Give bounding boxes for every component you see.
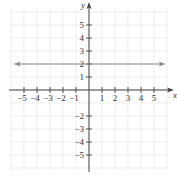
y-tick-label: 2 bbox=[80, 59, 85, 69]
y-tick-label: 1 bbox=[80, 72, 85, 82]
y-tick-label: −3 bbox=[74, 124, 84, 134]
x-tick-label: 4 bbox=[139, 93, 144, 103]
y-tick-label: −2 bbox=[74, 111, 84, 121]
y-tick-label: −4 bbox=[74, 137, 84, 147]
y-tick-label: −5 bbox=[74, 150, 84, 160]
x-tick-label: 5 bbox=[152, 93, 157, 103]
x-axis-label: x bbox=[172, 90, 177, 100]
x-tick-label: −5 bbox=[17, 93, 27, 103]
axes bbox=[9, 2, 174, 172]
x-tick-label: −1 bbox=[69, 93, 79, 103]
x-tick-label: −4 bbox=[30, 93, 40, 103]
x-tick-label: 3 bbox=[126, 93, 131, 103]
y-tick-label: 3 bbox=[80, 46, 85, 56]
y-axis-label: y bbox=[80, 0, 85, 10]
x-tick-label: −2 bbox=[56, 93, 66, 103]
x-tick-label: 1 bbox=[100, 93, 105, 103]
coordinate-plane: −5−4−3−2−112345−5−4−3−212345xy bbox=[0, 0, 177, 179]
y-tick-label: 5 bbox=[80, 20, 85, 30]
y-tick-label: 4 bbox=[80, 33, 85, 43]
tick-labels: −5−4−3−2−112345−5−4−3−212345xy bbox=[17, 0, 177, 160]
series-layer bbox=[14, 62, 166, 67]
x-tick-label: 2 bbox=[113, 93, 118, 103]
x-tick-label: −3 bbox=[43, 93, 53, 103]
